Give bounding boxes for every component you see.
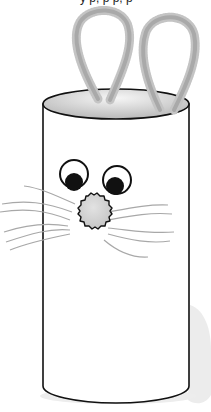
tube-body [43, 104, 189, 403]
bunny-craft-illustration [0, 0, 211, 412]
ear-left-icon [76, 10, 129, 100]
eye-right-icon [103, 166, 131, 195]
